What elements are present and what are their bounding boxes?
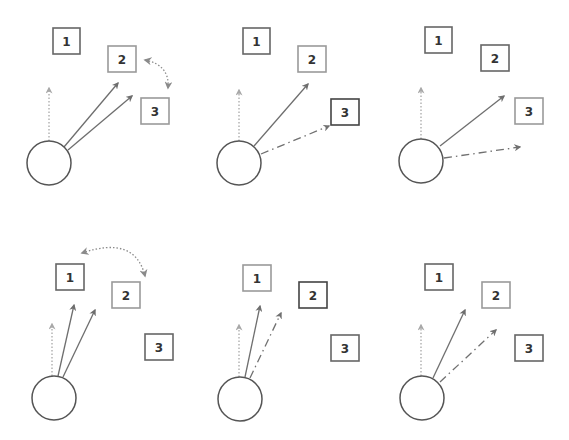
box-label: 1 (62, 35, 70, 49)
target-box-3: 3 (515, 335, 543, 361)
swap-double-arrow-icon (82, 248, 145, 276)
target-box-3: 3 (331, 335, 359, 361)
box-label: 3 (155, 341, 163, 355)
target-box-3: 3 (515, 98, 543, 124)
solid-arrow-icon (433, 310, 465, 378)
box-label: 2 (122, 289, 130, 303)
agent-circle (218, 377, 262, 421)
box-label: 3 (341, 106, 349, 120)
diagram-panel: 123 (27, 28, 169, 185)
agent-circle (217, 141, 261, 185)
box-label: 1 (66, 271, 74, 285)
agent-circle (399, 139, 443, 183)
diagram-panel: 123 (217, 28, 359, 185)
target-box-2: 2 (298, 46, 326, 72)
box-label: 2 (118, 53, 126, 67)
agent-circle (27, 141, 71, 185)
target-box-1: 1 (53, 28, 80, 54)
box-label: 2 (492, 289, 500, 303)
box-label: 1 (252, 35, 260, 49)
target-box-3: 3 (145, 334, 173, 360)
target-box-1: 1 (243, 265, 271, 291)
target-box-3: 3 (331, 99, 359, 125)
target-box-2: 2 (299, 282, 327, 308)
box-label: 3 (525, 105, 533, 119)
target-box-1: 1 (243, 28, 270, 54)
box-label: 1 (253, 272, 261, 286)
swap-double-arrow-icon (145, 60, 168, 88)
diagram-panel: 123 (399, 27, 543, 183)
box-label: 2 (308, 53, 316, 67)
box-label: 1 (434, 34, 442, 48)
box-label: 1 (435, 271, 443, 285)
box-label: 3 (341, 342, 349, 356)
target-box-1: 1 (425, 27, 452, 53)
diagram-svg: 123123123123123123 (0, 0, 569, 440)
target-box-2: 2 (482, 282, 510, 308)
diagram-panel: 123 (400, 264, 543, 420)
dashdot-arrow-icon (440, 330, 496, 382)
solid-arrow-icon (58, 305, 74, 376)
dashdot-arrow-icon (444, 147, 520, 158)
diagram-canvas: 123123123123123123 (0, 0, 569, 440)
target-box-2: 2 (108, 46, 136, 72)
target-box-1: 1 (56, 264, 84, 290)
target-box-2: 2 (112, 282, 140, 308)
solid-arrow-icon (440, 96, 504, 146)
panels-layer: 123123123123123123 (27, 27, 543, 421)
box-label: 3 (525, 342, 533, 356)
diagram-panel: 123 (32, 248, 173, 420)
solid-arrow-icon (245, 306, 260, 377)
box-label: 2 (491, 52, 499, 66)
solid-arrow-icon (254, 84, 308, 146)
target-box-2: 2 (481, 45, 509, 71)
target-box-3: 3 (141, 98, 169, 124)
box-label: 2 (309, 289, 317, 303)
box-label: 3 (151, 105, 159, 119)
dashdot-arrow-icon (261, 126, 329, 154)
diagram-panel: 123 (218, 265, 359, 421)
target-box-1: 1 (425, 264, 453, 290)
solid-arrow-icon (63, 310, 95, 377)
dashdot-arrow-icon (250, 313, 281, 378)
agent-circle (400, 376, 444, 420)
agent-circle (32, 376, 76, 420)
